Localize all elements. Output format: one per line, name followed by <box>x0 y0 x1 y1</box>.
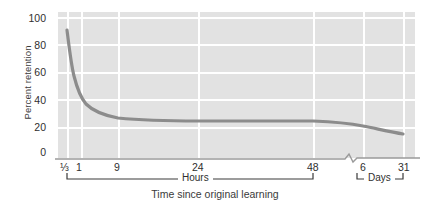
y-tick-label-20: 20 <box>12 122 46 133</box>
y-tick-label-40: 40 <box>12 95 46 106</box>
y-axis-title: Percent retention <box>22 9 33 157</box>
forgetting-curve-chart: Percent retention 100 80 60 40 20 0 ⅓ 1 … <box>0 0 430 206</box>
x-axis-baseline <box>50 148 425 170</box>
retention-curve <box>58 12 415 158</box>
y-tick-label-0: 0 <box>12 147 46 158</box>
x-group-label-hours: Hours <box>178 172 213 184</box>
y-tick-label-80: 80 <box>12 40 46 51</box>
x-group-label-days: Days <box>364 172 395 184</box>
x-axis-caption: Time since original learning <box>0 188 430 200</box>
plot-area <box>58 12 415 158</box>
y-tick-label-60: 60 <box>12 67 46 78</box>
y-tick-label-100: 100 <box>12 13 46 24</box>
